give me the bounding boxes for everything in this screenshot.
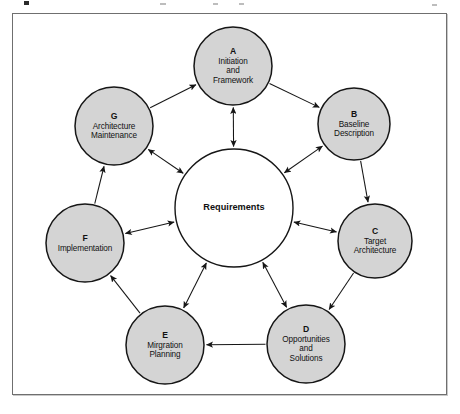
edge-c-to-requirements bbox=[294, 222, 337, 232]
node-f[interactable] bbox=[46, 204, 124, 282]
edge-e-to-f bbox=[111, 276, 140, 313]
edge-b-to-requirements bbox=[284, 146, 322, 173]
node-b[interactable] bbox=[318, 88, 390, 160]
edge-g-to-a bbox=[150, 85, 196, 108]
edge-b-to-c bbox=[361, 161, 368, 202]
node-a[interactable] bbox=[194, 27, 272, 105]
edge-a-to-b bbox=[270, 84, 320, 108]
node-e[interactable] bbox=[126, 306, 204, 384]
edge-g-to-requirements bbox=[148, 149, 183, 173]
edge-f-to-requirements bbox=[125, 222, 174, 233]
diagram-page: RequirementsAInitiationandFrameworkBBase… bbox=[0, 0, 460, 414]
node-d[interactable] bbox=[267, 305, 345, 383]
node-g[interactable] bbox=[75, 87, 153, 165]
node-c[interactable] bbox=[338, 204, 412, 278]
node-requirements-label: Requirements bbox=[164, 202, 304, 212]
edge-d-to-requirements bbox=[263, 262, 287, 307]
edge-e-to-requirements bbox=[184, 263, 207, 308]
edge-f-to-g bbox=[95, 166, 104, 203]
edge-c-to-d bbox=[329, 273, 353, 310]
